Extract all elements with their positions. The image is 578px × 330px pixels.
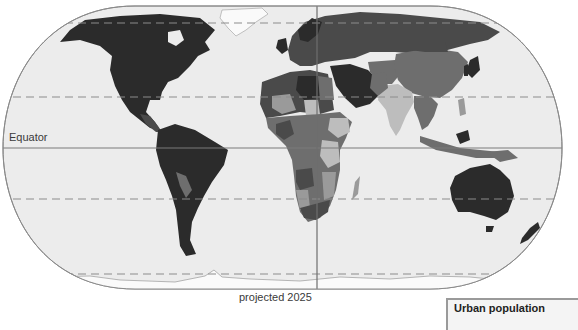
map-caption: projected 2025 [239,291,312,303]
korea [464,64,468,76]
legend-title: Urban population [454,302,545,314]
angola [296,168,314,190]
equator-label: Equator [9,131,48,143]
mozambique [322,172,336,200]
mongolia [410,42,448,52]
legend-box: Urban population [446,298,578,330]
egypt [318,76,334,100]
